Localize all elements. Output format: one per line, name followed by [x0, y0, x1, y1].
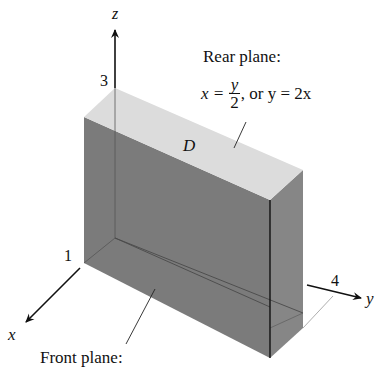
y-axis-base [303, 296, 333, 328]
rear-plane-eq-lhs: x = [201, 85, 224, 102]
rear-plane-fraction: y 2 [229, 76, 240, 111]
x-axis-label: x [8, 326, 16, 343]
z-tick-label: 3 [100, 73, 108, 89]
region-label: D [183, 137, 195, 154]
y-tick-label: 4 [331, 273, 339, 289]
side-face [270, 170, 303, 358]
diagram-canvas [0, 0, 381, 376]
front-plane-title: Front plane: [40, 349, 123, 366]
front-plane-leader [126, 289, 155, 344]
rear-plane-equation: x = y 2 , or y = 2x [201, 76, 311, 111]
fraction-numerator: y [230, 76, 240, 93]
rear-plane-title: Rear plane: [203, 48, 281, 65]
rear-plane-eq-rest: , or y = 2x [241, 85, 312, 102]
fraction-denominator: 2 [229, 93, 240, 111]
x-tick-label: 1 [64, 248, 72, 264]
z-axis-label: z [112, 6, 118, 22]
x-axis [26, 268, 80, 322]
y-axis-label: y [366, 290, 374, 307]
